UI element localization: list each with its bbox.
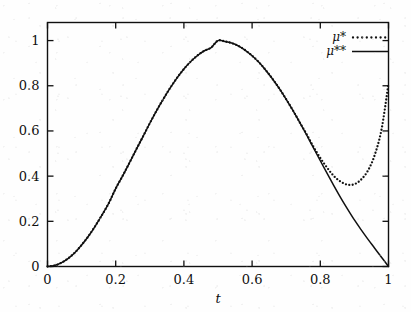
y-tick-label: 0.4: [19, 169, 40, 184]
chart-figure: 00.20.40.60.81 00.20.40.60.81 t μ* μ**: [0, 0, 411, 312]
plot-frame: [48, 23, 389, 267]
x-tick-label: 0.2: [105, 272, 126, 287]
y-axis-ticks: [48, 41, 389, 267]
x-tick-label: 1: [384, 272, 392, 287]
x-tick-label: 0.8: [310, 272, 331, 287]
legend-label-mu-star: μ*: [332, 30, 346, 44]
y-tick-label: 0: [31, 259, 39, 274]
x-tick-label: 0: [43, 272, 51, 287]
legend: μ* μ**: [326, 30, 388, 58]
series-line-mu-double-star: [48, 40, 389, 266]
y-tick-label: 1: [31, 33, 39, 48]
plot-canvas: 00.20.40.60.81 00.20.40.60.81 t μ* μ**: [0, 0, 411, 312]
x-axis-tick-labels: 00.20.40.60.81: [43, 272, 392, 287]
legend-label-mu-double-star: μ**: [326, 44, 346, 58]
y-tick-label: 0.6: [19, 123, 40, 138]
y-tick-label: 0.2: [19, 214, 40, 229]
y-axis-tick-labels: 00.20.40.60.81: [19, 33, 40, 274]
y-tick-label: 0.8: [19, 78, 40, 93]
x-tick-label: 0.6: [242, 272, 263, 287]
x-axis-ticks: [48, 23, 389, 267]
series-dots-mu-star: [46, 39, 389, 268]
legend-sample-dotted: [352, 36, 387, 38]
x-tick-label: 0.4: [174, 272, 195, 287]
x-axis-label: t: [215, 291, 221, 306]
